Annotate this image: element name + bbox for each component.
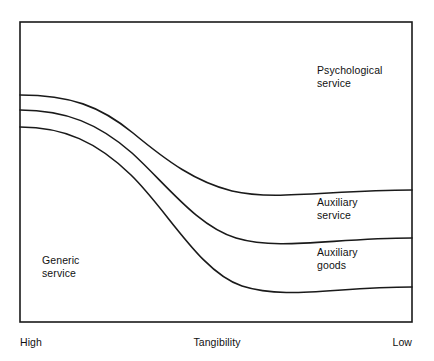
axis-label-low: Low — [0, 336, 412, 349]
tangibility-diagram: Psychological service Auxiliary service … — [0, 0, 434, 361]
band-label-generic-service: Generic service — [42, 254, 79, 279]
band-label-auxiliary-service: Auxiliary service — [317, 196, 358, 221]
diagram-canvas — [0, 0, 434, 361]
band-label-auxiliary-goods: Auxiliary goods — [317, 246, 358, 271]
band-label-psychological-service: Psychological service — [317, 64, 383, 89]
